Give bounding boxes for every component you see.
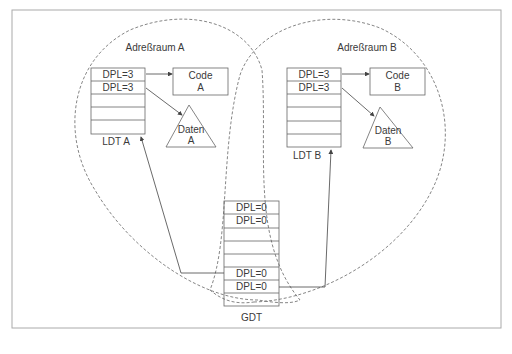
ldt-b-row-2: DPL=3 <box>287 81 341 94</box>
daten-a-label-line2: A <box>166 135 216 147</box>
diagram-canvas <box>0 0 512 354</box>
ldt-b-row-1: DPL=3 <box>287 68 341 81</box>
gdt-row-2: DPL=0 <box>224 214 279 227</box>
daten-b-label-line2: B <box>363 136 413 148</box>
gdt-row-7: DPL=0 <box>224 280 279 293</box>
arrow-gdt-to-ldt-b <box>279 150 331 287</box>
code-b-label-line1: Code <box>370 70 425 82</box>
address-space-b-title: Adreßraum B <box>327 42 407 54</box>
gdt-label: GDT <box>224 312 279 324</box>
ldt-a-row-1: DPL=3 <box>91 68 145 81</box>
code-a-label-line1: Code <box>173 70 228 82</box>
gdt-row-6: DPL=0 <box>224 267 279 280</box>
code-b-label-line2: B <box>370 82 425 94</box>
arrow-gdt-to-ldt-a <box>141 137 224 273</box>
address-space-a-outline <box>75 19 300 303</box>
ldt-a-label: LDT A <box>91 136 141 148</box>
ldt-a-row-2: DPL=3 <box>91 81 145 94</box>
address-space-b-outline <box>210 19 445 302</box>
code-a-label-line2: A <box>173 82 228 94</box>
ldt-b-label: LDT B <box>287 150 327 162</box>
address-space-a-title: Adreßraum A <box>115 42 195 54</box>
gdt-row-1: DPL=0 <box>224 201 279 214</box>
